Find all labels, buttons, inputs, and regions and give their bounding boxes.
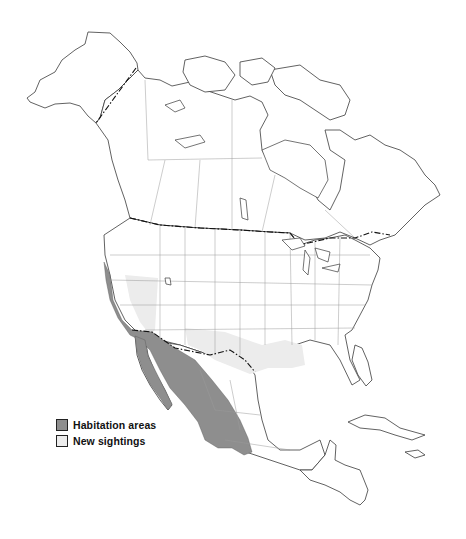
hispaniola (405, 450, 425, 458)
ellesmere-island (240, 58, 275, 85)
habitation-swatch (56, 419, 68, 431)
legend: Habitation areas New sightings (56, 417, 156, 449)
legend-label-sightings: New sightings (73, 435, 145, 447)
legend-label-habitation: Habitation areas (73, 419, 156, 431)
great-salt-lake (165, 278, 171, 285)
baffin-island (270, 65, 350, 120)
legend-item-sightings: New sightings (56, 433, 156, 449)
range-map (0, 0, 466, 539)
sightings-swatch (56, 435, 68, 447)
legend-item-habitation: Habitation areas (56, 417, 156, 433)
cuba (348, 415, 425, 440)
